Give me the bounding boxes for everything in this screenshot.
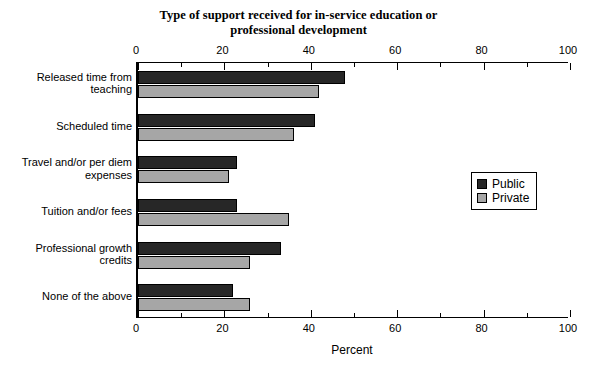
axis-tick-bot-50 <box>354 313 355 317</box>
y-category-label-4: Professional growthcredits <box>6 242 132 267</box>
bar-public-3 <box>138 199 237 212</box>
axis-tick-top-90 <box>527 63 528 67</box>
y-category-label-0-line-0: Released time from <box>6 71 132 84</box>
axis-tick-top-30 <box>268 63 269 67</box>
bar-public-4 <box>138 242 281 255</box>
y-axis-category-labels: Released time fromteachingScheduled time… <box>2 62 132 318</box>
axis-tick-top-70 <box>440 63 441 67</box>
legend-swatch-public <box>477 179 487 189</box>
axis-tick-bot-30 <box>268 313 269 317</box>
axis-tick-bot-90 <box>527 313 528 317</box>
bar-public-5 <box>138 284 233 297</box>
axis-tick-top-100 <box>570 63 571 70</box>
bar-private-0 <box>138 85 319 98</box>
axis-tick-top-20 <box>224 63 225 70</box>
y-category-label-4-line-1: credits <box>6 254 132 267</box>
x-tick-label-bottom-40: 40 <box>289 322 329 334</box>
x-tick-label-bottom-0: 0 <box>116 322 156 334</box>
y-category-label-5: None of the above <box>6 290 132 303</box>
legend-entry-private: Private <box>477 191 529 205</box>
y-category-label-1-line-0: Scheduled time <box>6 120 132 133</box>
bar-public-0 <box>138 71 345 84</box>
x-tick-label-bottom-100: 100 <box>548 322 588 334</box>
x-tick-label-top-40: 40 <box>289 44 329 56</box>
axis-tick-top-60 <box>397 63 398 70</box>
legend-label-private: Private <box>492 191 529 205</box>
axis-tick-top-10 <box>181 63 182 67</box>
bar-public-1 <box>138 114 315 127</box>
y-category-label-4-line-0: Professional growth <box>6 242 132 255</box>
x-tick-label-top-0: 0 <box>116 44 156 56</box>
bar-private-2 <box>138 170 229 183</box>
y-category-label-0: Released time fromteaching <box>6 71 132 96</box>
axis-tick-bot-80 <box>484 310 485 317</box>
y-category-label-1: Scheduled time <box>6 120 132 133</box>
bar-public-2 <box>138 156 237 169</box>
x-axis-title: Percent <box>136 343 568 357</box>
axis-tick-bot-10 <box>181 313 182 317</box>
y-category-label-2: Travel and/or per diemexpenses <box>6 156 132 181</box>
chart-title-line-2: professional development <box>0 23 597 38</box>
x-tick-label-bottom-20: 20 <box>202 322 242 334</box>
axis-tick-top-80 <box>484 63 485 70</box>
bar-private-3 <box>138 213 289 226</box>
axis-tick-top-0 <box>138 63 139 70</box>
y-category-label-0-line-1: teaching <box>6 83 132 96</box>
bar-private-5 <box>138 298 250 311</box>
y-category-label-3: Tuition and/or fees <box>6 205 132 218</box>
chart-title: Type of support received for in-service … <box>0 8 597 38</box>
chart-legend: PublicPrivate <box>471 172 537 210</box>
bar-private-4 <box>138 256 250 269</box>
bar-private-1 <box>138 128 294 141</box>
x-tick-label-top-20: 20 <box>202 44 242 56</box>
y-category-label-5-line-0: None of the above <box>6 290 132 303</box>
x-tick-label-top-100: 100 <box>548 44 588 56</box>
chart-title-line-1: Type of support received for in-service … <box>0 8 597 23</box>
y-category-label-2-line-1: expenses <box>6 169 132 182</box>
axis-tick-bot-40 <box>311 310 312 317</box>
x-tick-label-bottom-60: 60 <box>375 322 415 334</box>
x-tick-label-top-60: 60 <box>375 44 415 56</box>
axis-tick-bot-100 <box>570 310 571 317</box>
legend-entry-public: Public <box>477 177 529 191</box>
x-tick-label-bottom-80: 80 <box>462 322 502 334</box>
axis-tick-top-40 <box>311 63 312 70</box>
y-category-label-3-line-0: Tuition and/or fees <box>6 205 132 218</box>
axis-tick-top-50 <box>354 63 355 67</box>
y-category-label-2-line-0: Travel and/or per diem <box>6 156 132 169</box>
axis-tick-bot-70 <box>440 313 441 317</box>
x-tick-label-top-80: 80 <box>462 44 502 56</box>
axis-tick-bot-60 <box>397 310 398 317</box>
legend-swatch-private <box>477 193 487 203</box>
legend-label-public: Public <box>492 177 525 191</box>
